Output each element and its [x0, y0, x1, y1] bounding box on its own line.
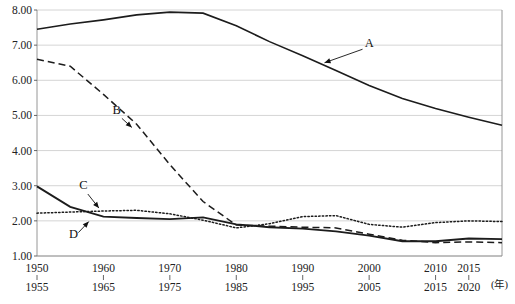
annotation-label-B: B: [113, 103, 121, 117]
x-tick-bottom-1985: 1985: [225, 281, 248, 293]
chart-figure: 1.002.003.004.005.006.007.008.00 1950196…: [0, 0, 515, 304]
x-tick-top-1970: 1970: [158, 262, 181, 274]
y-tick-label-7.00: 7.00: [12, 39, 32, 51]
x-tick-bottom-1995: 1995: [291, 281, 314, 293]
x-tick-bottom-1965: 1965: [92, 281, 115, 293]
y-tick-label-8.00: 8.00: [12, 4, 32, 16]
x-tick-top-1980: 1980: [225, 262, 248, 274]
y-tick-label-5.00: 5.00: [12, 109, 32, 121]
x-tick-top-1950: 1950: [26, 262, 49, 274]
x-tick-bottom-2015: 2015: [424, 281, 447, 293]
x-tick-bottom-1975: 1975: [158, 281, 181, 293]
y-tick-label-3.00: 3.00: [12, 180, 32, 192]
x-tick-bottom-1955: 1955: [26, 281, 49, 293]
annotation-label-C: C: [79, 178, 87, 192]
chart-background: [0, 0, 515, 304]
x-tick-top-2010: 2010: [424, 262, 447, 274]
y-tick-label-4.00: 4.00: [12, 145, 32, 157]
line-chart-canvas: 1.002.003.004.005.006.007.008.00 1950196…: [0, 0, 515, 304]
x-tick-top-1990: 1990: [291, 262, 314, 274]
y-tick-label-6.00: 6.00: [12, 74, 32, 86]
x-tick-top-1960: 1960: [92, 262, 115, 274]
x-tick-bottom-2020: 2020: [457, 281, 480, 293]
y-tick-label-2.00: 2.00: [12, 215, 32, 227]
y-tick-label-1.00: 1.00: [12, 250, 32, 262]
x-axis-unit-label: (年): [491, 278, 508, 291]
annotation-label-A: A: [365, 36, 374, 50]
annotation-label-D: D: [69, 227, 78, 241]
x-tick-top-2000: 2000: [358, 262, 381, 274]
x-tick-bottom-2005: 2005: [358, 281, 381, 293]
x-tick-top-2015: 2015: [457, 262, 480, 274]
